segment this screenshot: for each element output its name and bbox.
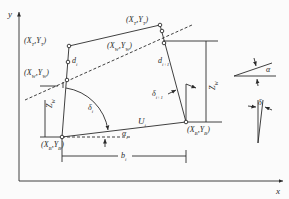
label-b-i: (XB,YB) [41, 141, 64, 151]
point-t-i1 [158, 23, 162, 27]
label-alpha-i: αi [122, 130, 128, 140]
point-w-i1 [160, 29, 164, 33]
point-t-i [67, 44, 71, 48]
label-delta-i: δi [88, 104, 93, 114]
legend-alpha-label: α [266, 66, 270, 74]
legend-delta-label: δ [258, 99, 262, 107]
label-z-w-i1: ZW [209, 81, 219, 90]
right-post [160, 25, 186, 122]
x-axis-label: x [276, 187, 280, 196]
left-post [62, 46, 69, 137]
label-delta-i1: δi+1 [152, 90, 163, 100]
point-w-i [65, 78, 69, 82]
label-z-w-i: ZW [46, 99, 56, 108]
point-d-i1 [162, 41, 166, 45]
point-b-i1 [184, 120, 188, 124]
label-u-i: Ui [138, 117, 146, 128]
label-w-i: (XW,YW) [24, 69, 49, 79]
label-d-i: di [72, 57, 77, 67]
label-w-i1: (XW,YW) [107, 42, 132, 52]
geometry-diagram: y x (XT,YT) (XW,YW) (XB,YB) (XT,YT) (XW,… [0, 0, 289, 199]
label-d-i1: di+1 [158, 57, 169, 67]
y-axis-label: y [8, 10, 12, 19]
label-b-i1: (XB,YB) [187, 126, 210, 136]
point-d-i [66, 60, 70, 64]
label-t-i: (XT,YT) [24, 37, 46, 47]
diagram-lines [0, 0, 289, 199]
point-b-i [60, 135, 64, 139]
label-t-i1: (XT,YT) [126, 16, 148, 26]
label-b-i-dim: bi [121, 152, 126, 162]
